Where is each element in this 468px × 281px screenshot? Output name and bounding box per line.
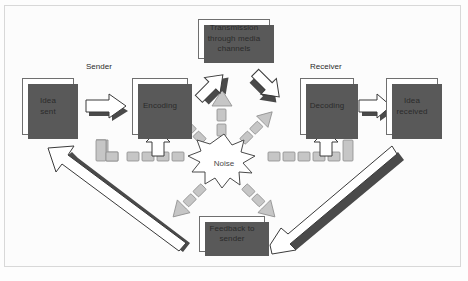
- node-feedback-line2: sender: [217, 234, 246, 243]
- node-idea-received-line1: Idea: [402, 96, 422, 105]
- node-idea-received-line2: received: [394, 107, 429, 116]
- node-idea-sent-line2: sent: [38, 107, 58, 116]
- node-encoding[interactable]: Encoding: [132, 78, 188, 135]
- node-feedback-line1: Feedback to: [207, 224, 256, 233]
- arrow-encoding-to-transmission: [191, 66, 236, 111]
- node-encoding-label: Encoding: [141, 101, 179, 112]
- caption-sender: Sender: [86, 62, 112, 71]
- caption-receiver: Receiver: [310, 62, 342, 71]
- arrow-idea-to-encoding: [86, 94, 128, 121]
- diagram-canvas: Sender Receiver Idea sent Encoding Trans…: [0, 0, 468, 281]
- arrow-transmission-to-decoding: [244, 65, 289, 110]
- node-transmission[interactable]: Transmission through media channels: [198, 19, 270, 59]
- node-transmission-line3: channels: [216, 44, 253, 53]
- node-feedback[interactable]: Feedback to sender: [199, 216, 265, 252]
- node-decoding[interactable]: Decoding: [300, 78, 354, 135]
- node-idea-sent-line1: Idea: [38, 96, 58, 105]
- node-idea-received[interactable]: Idea received: [386, 78, 438, 135]
- node-transmission-line2: through media: [206, 34, 262, 43]
- node-transmission-line1: Transmission: [208, 23, 260, 32]
- node-idea-sent[interactable]: Idea sent: [22, 78, 74, 135]
- node-decoding-label: Decoding: [308, 101, 347, 112]
